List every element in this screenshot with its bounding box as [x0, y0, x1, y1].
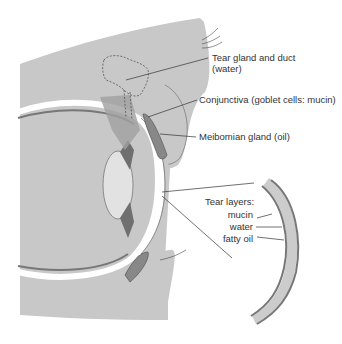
label-tear-layers: Tear layers: — [205, 196, 254, 207]
label-meibomian: Meibomian gland (oil) — [199, 131, 290, 142]
leader-tear-layers-top — [162, 183, 254, 192]
leader-fatty-oil — [257, 237, 284, 240]
label-mucin: mucin — [215, 209, 253, 220]
label-fatty-oil: fatty oil — [205, 233, 253, 244]
label-conjunctiva: Conjunctiva (goblet cells: mucin) — [199, 94, 336, 105]
leader-mucin — [257, 214, 272, 218]
label-tear-gland: Tear gland and duct — [212, 52, 295, 63]
label-water: water — [215, 221, 253, 232]
label-tear-gland-water: (water) — [212, 63, 242, 74]
